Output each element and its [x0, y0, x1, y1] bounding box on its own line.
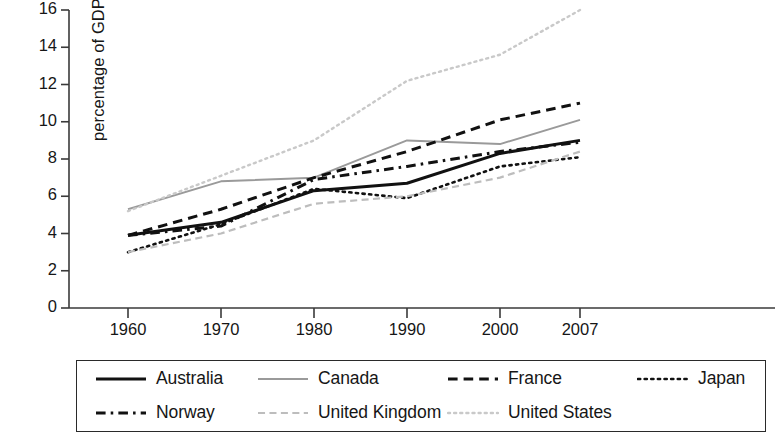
x-axis-tick-label: 1980	[279, 320, 349, 339]
series-line-united-states	[128, 10, 580, 211]
legend-label: Japan	[698, 368, 745, 389]
y-axis-tick-label: 6	[23, 185, 57, 204]
chart-legend: AustraliaCanadaFranceJapanNorwayUnited K…	[76, 360, 766, 432]
legend-label: Canada	[318, 368, 379, 389]
y-axis-tick-label: 2	[23, 260, 57, 279]
legend-label: Australia	[156, 368, 223, 389]
chart-container: percentage of GDP 0246810121416 19601970…	[0, 0, 779, 438]
y-axis-tick-label: 4	[23, 223, 57, 242]
legend-item-united-kingdom[interactable]: United Kingdom	[257, 396, 441, 429]
legend-item-canada[interactable]: Canada	[257, 362, 379, 395]
x-axis-tick-label: 1960	[93, 320, 163, 339]
y-axis-tick-label: 8	[23, 148, 57, 167]
x-axis-tick-label: 1990	[372, 320, 442, 339]
y-axis-tick-label: 14	[23, 36, 57, 55]
series-line-australia	[128, 140, 580, 235]
y-axis-tick-label: 12	[23, 74, 57, 93]
legend-row: AustraliaCanadaFranceJapan	[77, 362, 765, 395]
legend-item-japan[interactable]: Japan	[637, 362, 745, 395]
x-axis-tick-label: 2007	[545, 320, 615, 339]
legend-line-swatch	[637, 372, 689, 386]
legend-label: France	[508, 368, 562, 389]
legend-item-france[interactable]: France	[447, 362, 562, 395]
legend-item-australia[interactable]: Australia	[95, 362, 223, 395]
legend-label: Norway	[156, 402, 215, 423]
legend-line-swatch	[95, 406, 147, 420]
legend-line-swatch	[447, 372, 499, 386]
y-axis-tick-label: 10	[23, 111, 57, 130]
legend-label: United States	[508, 402, 612, 423]
legend-label: United Kingdom	[318, 402, 441, 423]
legend-line-swatch	[257, 406, 309, 420]
legend-line-swatch	[95, 372, 147, 386]
y-axis-tick-label: 0	[23, 297, 57, 316]
legend-line-swatch	[447, 406, 499, 420]
legend-line-swatch	[257, 372, 309, 386]
y-axis-tick-label: 16	[23, 0, 57, 18]
legend-item-norway[interactable]: Norway	[95, 396, 215, 429]
legend-item-united-states[interactable]: United States	[447, 396, 612, 429]
series-line-france	[128, 103, 580, 235]
legend-row: NorwayUnited KingdomUnited States	[77, 396, 765, 429]
x-axis-tick-label: 2000	[465, 320, 535, 339]
x-axis-tick-label: 1970	[186, 320, 256, 339]
